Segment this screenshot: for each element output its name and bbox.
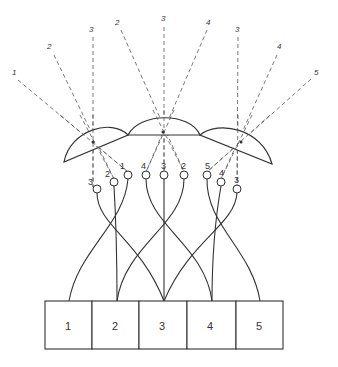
ray-overlay: [60, 115, 128, 172]
focal-point-right: [240, 141, 243, 144]
ray-label: 3: [89, 25, 94, 34]
axon-fibers: [69, 179, 260, 301]
ray-4-mid: [146, 30, 207, 172]
receptor-label: 3: [234, 175, 239, 185]
receptor-left-1: [124, 171, 132, 179]
cartridge-label: 1: [65, 320, 71, 332]
ray-label: 4: [206, 18, 211, 27]
receptor-right-4: [217, 178, 225, 186]
ray-label: 1: [12, 68, 16, 77]
fiber-mid-2: [117, 179, 184, 301]
receptor-label: 5: [205, 161, 210, 171]
ray-2-mid: [121, 30, 184, 172]
receptor-label: 2: [105, 169, 110, 179]
cartridge-label: 4: [207, 320, 213, 332]
receptor-right-3: [233, 185, 241, 193]
receptor-mid-2: [180, 171, 188, 179]
fiber-right-5: [207, 179, 260, 301]
receptor-label: 2: [181, 161, 186, 171]
fiber-left-2: [114, 186, 117, 301]
ray-label: 2: [114, 18, 120, 27]
neural-superposition-diagram: 1 2 3 2 3 4 3 4 5 3 2 1 4 3 2 5 4 3 1 2 …: [0, 0, 338, 367]
receptor-label: 3: [88, 177, 93, 187]
receptor-label: 4: [141, 161, 146, 171]
cartridge-label: 3: [159, 320, 165, 332]
receptor-label: 1: [120, 161, 125, 171]
receptor-mid-3: [160, 171, 168, 179]
cartridge-label: 2: [112, 320, 118, 332]
ray-label: 3: [161, 14, 166, 23]
receptor-label: 3: [161, 161, 166, 171]
fiber-right-4: [212, 186, 221, 301]
ray-label: 2: [46, 42, 52, 51]
focal-point-middle: [162, 131, 165, 134]
receptor-left-3: [93, 185, 101, 193]
ray-labels: 1 2 3 2 3 4 3 4 5: [12, 14, 319, 77]
receptor-mid-4: [142, 171, 150, 179]
cartridges: 1 2 3 4 5: [45, 301, 283, 349]
left-lens: [64, 127, 128, 162]
ray-label: 4: [277, 42, 282, 51]
cartridge-label: 5: [256, 320, 262, 332]
receptor-label: 4: [219, 168, 224, 178]
focal-point-left: [92, 141, 95, 144]
fiber-left-3: [97, 193, 164, 301]
ray-label: 3: [235, 25, 240, 34]
receptor-left-2: [110, 178, 118, 186]
ray-label: 5: [314, 68, 319, 77]
fiber-left-1: [69, 179, 128, 301]
receptor-right-5: [203, 171, 211, 179]
